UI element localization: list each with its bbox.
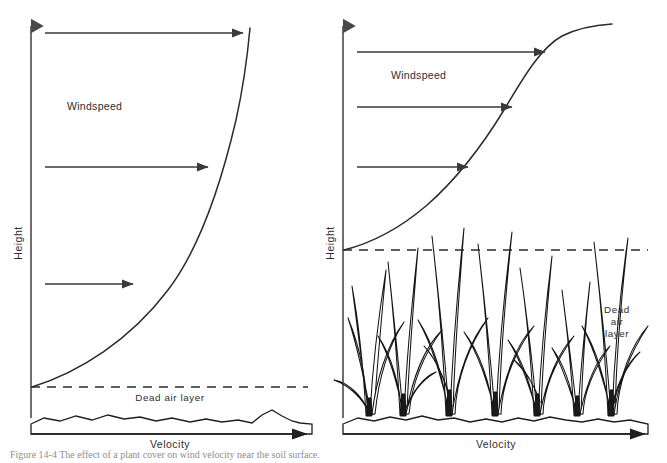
y-axis-label-vegetated: Height bbox=[324, 226, 336, 259]
grass-tuft bbox=[334, 270, 404, 416]
windspeed-label-vegetated: Windspeed bbox=[391, 69, 446, 81]
panel-vegetated: Height Windspeed bbox=[324, 24, 648, 450]
dead-air-label-line-1: Dead bbox=[604, 304, 630, 315]
grass-canopy bbox=[334, 228, 648, 416]
grass-tuft bbox=[552, 282, 610, 416]
dead-air-label-line-3: layer bbox=[605, 328, 629, 339]
y-axis-label-bare-soil: Height bbox=[12, 226, 24, 259]
grass-tuft bbox=[582, 238, 648, 416]
panel-bare-soil: Height Windspeed Dead air layer Velocity bbox=[12, 26, 312, 450]
figure-caption: Figure 14-4 The effect of a plant cover … bbox=[10, 448, 660, 462]
dead-air-label-line-2: air bbox=[611, 316, 624, 327]
windspeed-label-bare-soil: Windspeed bbox=[67, 100, 122, 112]
grass-tuft bbox=[464, 232, 534, 416]
windspeed-curve-vegetated bbox=[344, 24, 612, 250]
figure-root: Height Windspeed Dead air layer Velocity… bbox=[0, 0, 667, 463]
grass-tuft bbox=[508, 256, 574, 416]
dead-air-label-bare-soil: Dead air layer bbox=[135, 392, 205, 403]
soil-band-vegetated bbox=[343, 416, 648, 434]
grass-tuft bbox=[378, 248, 442, 416]
wind-profile-diagram: Height Windspeed Dead air layer Velocity… bbox=[0, 0, 667, 463]
windspeed-curve-bare-soil bbox=[32, 28, 250, 387]
grass-tuft bbox=[418, 228, 488, 416]
soil-band-bare-soil bbox=[31, 410, 312, 434]
